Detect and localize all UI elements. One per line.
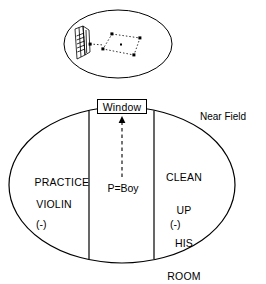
inset-window-drawing bbox=[75, 26, 90, 59]
region-right-valence: (-) bbox=[170, 219, 181, 230]
region-right-line-3: HIS bbox=[160, 238, 208, 249]
region-left-label: PRACTICE VIOLIN bbox=[22, 166, 86, 232]
region-left-line-1: PRACTICE bbox=[34, 176, 89, 188]
region-left-line-2: VIOLIN bbox=[22, 199, 86, 210]
window-label: Window bbox=[103, 101, 142, 113]
region-right-line-2: UP bbox=[160, 205, 208, 216]
dashed-arrow-up bbox=[119, 116, 126, 177]
region-right-line-4: ROOM bbox=[160, 271, 208, 282]
inset-dotted-region bbox=[89, 32, 142, 56]
region-right-line-1: CLEAN bbox=[160, 172, 208, 183]
region-right-label: CLEAN UP HIS ROOM bbox=[160, 150, 208, 284]
window-label-box: Window bbox=[97, 99, 147, 114]
near-field-label: Near Field bbox=[200, 112, 246, 123]
person-label: P=Boy bbox=[101, 183, 145, 194]
region-left-valence: (-) bbox=[36, 219, 47, 230]
